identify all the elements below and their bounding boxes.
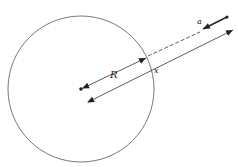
dashed-extension-line	[148, 32, 200, 56]
diagram-canvas: R x a	[0, 0, 238, 167]
acceleration-label: a	[197, 17, 202, 26]
distance-label: x	[154, 66, 159, 75]
acceleration-arrow	[203, 17, 227, 29]
distance-arrow	[88, 30, 233, 102]
center-dot	[79, 87, 83, 91]
radius-label: R	[109, 69, 118, 80]
